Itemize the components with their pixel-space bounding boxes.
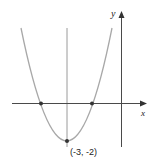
y-axis-label: y <box>110 8 116 19</box>
parabola-graph: y x (-3, -2) <box>0 0 152 163</box>
x-axis-arrow-icon <box>140 101 147 107</box>
vertex-point <box>65 139 69 143</box>
y-axis-arrow-icon <box>119 11 125 18</box>
vertex-label: (-3, -2) <box>70 147 97 157</box>
x-axis-label: x <box>140 108 145 118</box>
x-intercept-right-point <box>90 102 94 106</box>
x-intercept-left-point <box>39 102 43 106</box>
